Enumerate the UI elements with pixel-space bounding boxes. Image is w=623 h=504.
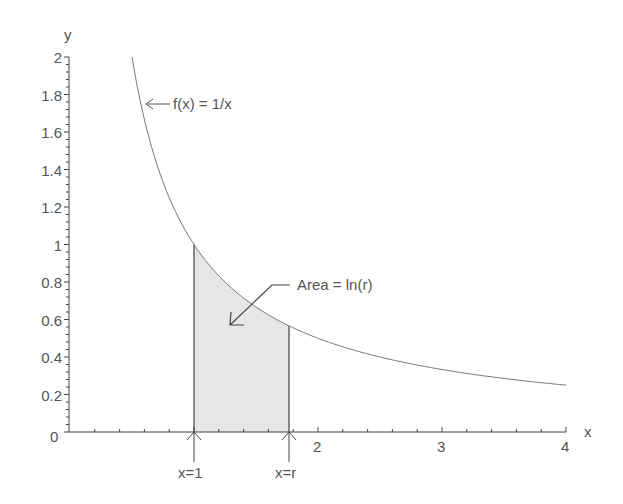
y-tick-label: 0.2 — [41, 387, 62, 404]
x-ticks — [95, 427, 566, 432]
shaded-area — [194, 245, 290, 433]
arrow-icon — [146, 99, 170, 109]
y-tick-label: 1.2 — [41, 199, 62, 216]
y-ticks — [64, 57, 69, 432]
y-tick-label: 1.6 — [41, 124, 62, 141]
y-tick-label: 0.4 — [41, 349, 62, 366]
y-tick-labels: 0.20.40.60.811.21.41.61.82 — [41, 49, 62, 404]
x-tick-2: 2 — [313, 438, 321, 455]
function-label: f(x) = 1/x — [173, 95, 232, 112]
x-axis-label: x — [584, 423, 592, 440]
area-label: Area = ln(r) — [297, 276, 372, 293]
origin-label: 0 — [50, 428, 58, 445]
y-tick-label: 1.4 — [41, 162, 62, 179]
x-tick-4: 4 — [561, 438, 569, 455]
y-tick-label: 1 — [54, 237, 62, 254]
y-tick-label: 2 — [54, 49, 62, 66]
y-tick-label: 0.8 — [41, 274, 62, 291]
arrow-icon — [187, 432, 296, 462]
y-tick-label: 1.8 — [41, 87, 62, 104]
x-tick-3: 3 — [437, 438, 445, 455]
xr-label: x=r — [275, 464, 296, 481]
y-tick-label: 0.6 — [41, 312, 62, 329]
y-axis-label: y — [64, 26, 72, 43]
x1-label: x=1 — [178, 464, 203, 481]
plot-canvas: 0.20.40.60.811.21.41.61.82 0 2 3 4 y x f… — [0, 0, 623, 504]
